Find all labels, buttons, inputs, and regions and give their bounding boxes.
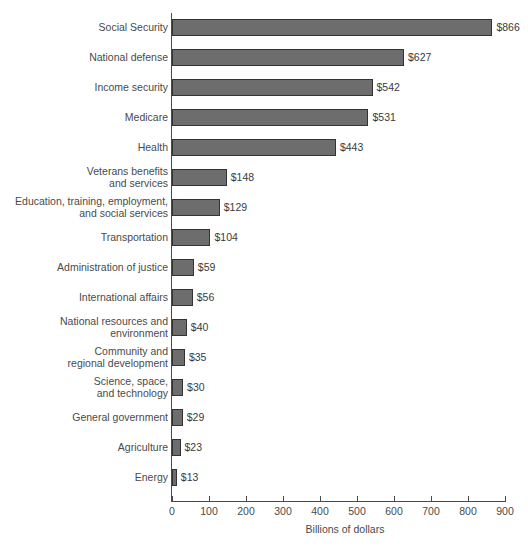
bar [172, 139, 336, 156]
bar-row: Veterans benefits and services$148 [0, 163, 528, 193]
category-label: Social Security [0, 22, 168, 34]
x-axis-tick [283, 496, 284, 502]
bar-value-label: $40 [191, 321, 209, 333]
category-label: Income security [0, 82, 168, 94]
bar-value-label: $443 [340, 141, 363, 153]
x-axis-tick [431, 496, 432, 502]
bar-value-label: $148 [231, 171, 254, 183]
category-label: National defense [0, 52, 168, 64]
bar-row: Energy$13 [0, 463, 528, 493]
x-axis-tick-label: 600 [374, 505, 414, 517]
bar [172, 79, 373, 96]
bar [172, 109, 368, 126]
x-axis-tick [320, 496, 321, 502]
bar [172, 19, 492, 36]
bar-value-label: $13 [181, 471, 199, 483]
x-axis-tick-label: 900 [485, 505, 525, 517]
bar [172, 379, 183, 396]
bar-chart: Social Security$866National defense$627I… [0, 0, 528, 548]
x-axis-tick-label: 100 [189, 505, 229, 517]
x-axis-tick [505, 496, 506, 502]
category-label: Health [0, 142, 168, 154]
category-label: Veterans benefits and services [0, 166, 168, 189]
x-axis-tick-label: 0 [152, 505, 192, 517]
category-label: General government [0, 412, 168, 424]
x-axis-tick-label: 300 [263, 505, 303, 517]
bar-row: Medicare$531 [0, 103, 528, 133]
category-label: Science, space, and technology [0, 376, 168, 399]
x-axis-line [171, 501, 506, 502]
x-axis-tick [394, 496, 395, 502]
bar-value-label: $23 [185, 441, 203, 453]
bar [172, 439, 181, 456]
bar-row: Agriculture$23 [0, 433, 528, 463]
bar [172, 469, 177, 486]
bar-row: Administration of justice$59 [0, 253, 528, 283]
x-axis-title-text: Billions of dollars [306, 523, 385, 535]
x-axis-tick [246, 496, 247, 502]
category-label: Administration of justice [0, 262, 168, 274]
bar-row: Health$443 [0, 133, 528, 163]
x-axis-title: Billions of dollars [0, 523, 528, 535]
y-axis-line [171, 13, 172, 502]
x-axis-tick [468, 496, 469, 502]
x-axis-tick [209, 496, 210, 502]
bar-value-label: $542 [377, 81, 400, 93]
x-axis-tick [172, 496, 173, 502]
bar [172, 199, 220, 216]
bar [172, 349, 185, 366]
bar-row: Transportation$104 [0, 223, 528, 253]
category-label: International affairs [0, 292, 168, 304]
category-label: Energy [0, 472, 168, 484]
x-axis-tick [357, 496, 358, 502]
bar-row: International affairs$56 [0, 283, 528, 313]
bar [172, 49, 404, 66]
bar-row: National resources and environment$40 [0, 313, 528, 343]
bar-value-label: $35 [189, 351, 207, 363]
x-axis-tick-label: 500 [337, 505, 377, 517]
x-axis-tick-label: 700 [411, 505, 451, 517]
bar [172, 169, 227, 186]
x-axis-tick-label: 800 [448, 505, 488, 517]
x-axis-tick-label: 400 [300, 505, 340, 517]
bar-row: Education, training, employment, and soc… [0, 193, 528, 223]
x-axis-tick-label: 200 [226, 505, 266, 517]
bar [172, 289, 193, 306]
category-label: Community and regional development [0, 346, 168, 369]
bar-row: General government$29 [0, 403, 528, 433]
bar [172, 409, 183, 426]
bar-value-label: $104 [214, 231, 237, 243]
bar-row: National defense$627 [0, 43, 528, 73]
category-label: Education, training, employment, and soc… [0, 196, 168, 219]
bar-row: Income security$542 [0, 73, 528, 103]
bar [172, 259, 194, 276]
category-label: Agriculture [0, 442, 168, 454]
bar [172, 229, 210, 246]
bar-row: Community and regional development$35 [0, 343, 528, 373]
bar-value-label: $866 [496, 21, 519, 33]
bar-row: Science, space, and technology$30 [0, 373, 528, 403]
category-label: National resources and environment [0, 316, 168, 339]
bar-value-label: $531 [372, 111, 395, 123]
bar-value-label: $129 [224, 201, 247, 213]
bar-value-label: $30 [187, 381, 205, 393]
bar-value-label: $627 [408, 51, 431, 63]
bar-row: Social Security$866 [0, 13, 528, 43]
bar-value-label: $59 [198, 261, 216, 273]
category-label: Transportation [0, 232, 168, 244]
bar [172, 319, 187, 336]
bar-value-label: $29 [187, 411, 205, 423]
category-label: Medicare [0, 112, 168, 124]
bar-value-label: $56 [197, 291, 215, 303]
